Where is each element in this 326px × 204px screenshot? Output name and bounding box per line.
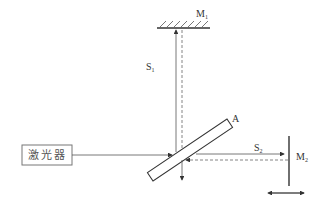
mirror-m1: M1 [157,8,210,28]
beam-splitter-label: A [232,113,240,124]
mirror-m2-label: M2 [296,151,308,163]
path-s2-label: S2 [254,142,263,154]
laser-label: 激光器 [28,148,67,162]
mirror-m1-label: M1 [196,8,208,20]
beam-splitter [147,119,232,181]
path-s1-label: S1 [146,61,155,73]
interferometer-diagram: 激光器 M1 S1 A S2 M2 [0,0,326,204]
laser-source: 激光器 [22,145,72,165]
